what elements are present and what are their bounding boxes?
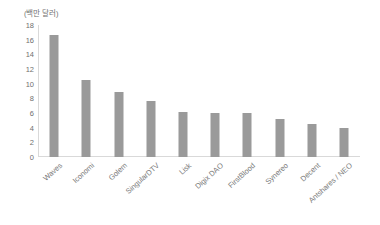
y-axis-tick-label: 18 [26, 21, 34, 30]
x-axis-category-label: Decent [298, 161, 321, 183]
x-axis-category-label: Iconomi [71, 161, 96, 185]
x-axis-category-label: FirstBlood [227, 161, 258, 190]
x-axis-category-label: Waves [41, 161, 64, 183]
bar [114, 92, 123, 157]
bar [275, 119, 284, 157]
x-axis-category-label: Digix DAO [193, 161, 225, 191]
bar [82, 80, 91, 157]
y-axis-tick-label: 0 [30, 153, 34, 162]
x-axis-category-label: Synereo [263, 161, 290, 186]
bars-layer [38, 25, 360, 157]
plot-area: 024681012141618 [38, 25, 360, 157]
y-axis-tick-label: 6 [30, 109, 34, 118]
bar [339, 128, 348, 157]
y-axis-tick-label: 10 [26, 79, 34, 88]
y-axis-tick-label: 12 [26, 65, 34, 74]
y-axis-tick-label: 14 [26, 50, 34, 59]
x-axis-category-label: SingularDTV [123, 161, 160, 196]
bar [211, 113, 220, 157]
y-axis-tick-label: 16 [26, 35, 34, 44]
y-axis-tick-label: 2 [30, 138, 34, 147]
bar [146, 101, 155, 157]
bar [307, 124, 316, 157]
bar-chart: (백만 달러) 024681012141618 WavesIconomiGole… [0, 0, 380, 225]
bar [243, 113, 252, 157]
y-axis-tick-label: 8 [30, 94, 34, 103]
y-axis-tick-label: 4 [30, 123, 34, 132]
x-axis-category-label: Golem [106, 161, 128, 182]
y-axis-unit-caption: (백만 달러) [24, 7, 58, 18]
bar [178, 112, 187, 157]
x-axis-category-label: Lisk [177, 161, 193, 176]
bar [50, 35, 59, 157]
